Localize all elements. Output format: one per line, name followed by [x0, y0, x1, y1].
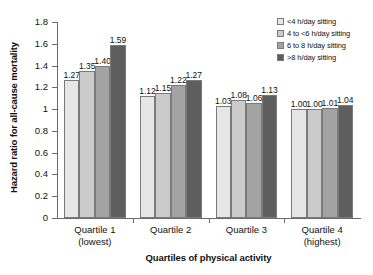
y-axis-tick-label: 1 [43, 103, 48, 114]
y-axis-tick: 0.4 [52, 174, 57, 175]
bar[interactable]: 1.22 [171, 85, 186, 218]
legend-swatch-icon [277, 30, 284, 37]
x-axis-tick-label: Quartile 2 [133, 224, 209, 236]
y-axis-tick-label: 0.6 [35, 147, 48, 158]
legend-label: >8 h/day sitting [287, 53, 336, 62]
x-axis-tick-label-line1: Quartile 3 [209, 224, 285, 236]
y-axis-tick: 0.2 [52, 196, 57, 197]
bar[interactable]: 1.00 [307, 109, 322, 218]
bar[interactable]: 1.27 [64, 80, 79, 218]
x-axis-tick-label-line1: Quartile 1 [57, 224, 133, 236]
bar[interactable]: 1.35 [79, 71, 94, 218]
bar[interactable]: 1.13 [262, 95, 277, 218]
legend-label: 4 to <6 h/day sitting [287, 29, 350, 38]
bar-value-label: 1.01 [322, 98, 339, 108]
x-axis-tick-label-line2: (highest) [284, 236, 360, 248]
bar[interactable]: 1.40 [95, 66, 110, 218]
x-axis-tick [284, 218, 285, 223]
y-axis-tick: 1.8 [52, 22, 57, 23]
x-axis-tick-label: Quartile 1(lowest) [57, 224, 133, 248]
y-axis-tick-label: 0.2 [35, 190, 48, 201]
bar-value-label: 1.27 [63, 70, 80, 80]
bar[interactable]: 1.06 [246, 103, 261, 218]
y-axis-line [57, 22, 58, 219]
bar[interactable]: 1.04 [338, 105, 353, 218]
bar[interactable]: 1.15 [155, 93, 170, 218]
bar-value-label: 1.04 [337, 95, 354, 105]
y-axis-tick: 0 [52, 218, 57, 219]
bar-group: 1.271.351.401.59 [64, 22, 126, 218]
x-axis-tick-label-line1: Quartile 2 [133, 224, 209, 236]
x-axis-title: Quartiles of physical activity [57, 252, 360, 263]
x-axis-tick-label: Quartile 4(highest) [284, 224, 360, 248]
legend-swatch-icon [277, 42, 284, 49]
legend-swatch-icon [277, 54, 284, 61]
y-axis-tick-label: 1.8 [35, 16, 48, 27]
bar-group: 1.121.151.221.27 [140, 22, 202, 218]
bar-value-label: 1.59 [110, 35, 127, 45]
y-axis-tick-label: 0 [43, 212, 48, 223]
legend-item[interactable]: 4 to <6 h/day sitting [277, 28, 350, 39]
bar-value-label: 1.00 [306, 99, 323, 109]
x-axis-tick-label: Quartile 3 [209, 224, 285, 236]
bar[interactable]: 1.08 [231, 100, 246, 218]
legend-item[interactable]: <4 h/day sitting [277, 16, 350, 27]
y-axis-title: Hazard ratio for all-cause mortality [8, 13, 19, 223]
x-axis-tick-label-line1: Quartile 4 [284, 224, 360, 236]
legend-label: <4 h/day sitting [287, 17, 336, 26]
bar[interactable]: 1.00 [291, 109, 306, 218]
bar[interactable]: 1.27 [186, 80, 201, 218]
legend: <4 h/day sitting4 to <6 h/day sitting6 t… [277, 16, 350, 64]
bar-value-label: 1.03 [215, 96, 232, 106]
y-axis-tick: 0.6 [52, 153, 57, 154]
y-axis-tick-label: 1.4 [35, 60, 48, 71]
x-axis-tick-label-line2: (lowest) [57, 236, 133, 248]
legend-item[interactable]: 6 to 8 h/day sitting [277, 40, 350, 51]
bar-value-label: 1.40 [94, 56, 111, 66]
bar[interactable]: 1.03 [216, 106, 231, 218]
bar[interactable]: 1.59 [110, 45, 125, 218]
y-axis-tick-label: 0.4 [35, 168, 48, 179]
bar-value-label: 1.27 [186, 70, 203, 80]
x-axis-tick [209, 218, 210, 223]
y-axis-tick: 1 [52, 109, 57, 110]
bar-value-label: 1.15 [155, 83, 172, 93]
legend-label: 6 to 8 h/day sitting [287, 41, 346, 50]
x-axis-tick [133, 218, 134, 223]
bar-value-label: 1.06 [246, 93, 263, 103]
bar[interactable]: 1.01 [322, 108, 337, 218]
bar-value-label: 1.22 [170, 75, 187, 85]
y-axis-tick: 1.6 [52, 44, 57, 45]
legend-swatch-icon [277, 18, 284, 25]
legend-item[interactable]: >8 h/day sitting [277, 52, 350, 63]
bar-value-label: 1.08 [230, 90, 247, 100]
y-axis-tick: 1.4 [52, 66, 57, 67]
bar-value-label: 1.13 [261, 85, 278, 95]
bar[interactable]: 1.12 [140, 96, 155, 218]
y-axis-tick-label: 1.2 [35, 81, 48, 92]
y-axis-tick: 1.2 [52, 87, 57, 88]
y-axis-tick: 0.8 [52, 131, 57, 132]
bar-value-label: 1.35 [79, 61, 96, 71]
y-axis-tick-label: 1.6 [35, 38, 48, 49]
bar-value-label: 1.12 [139, 86, 156, 96]
bar-group: 1.031.081.061.13 [216, 22, 278, 218]
bar-value-label: 1.00 [291, 99, 308, 109]
y-axis-tick-label: 0.8 [35, 125, 48, 136]
